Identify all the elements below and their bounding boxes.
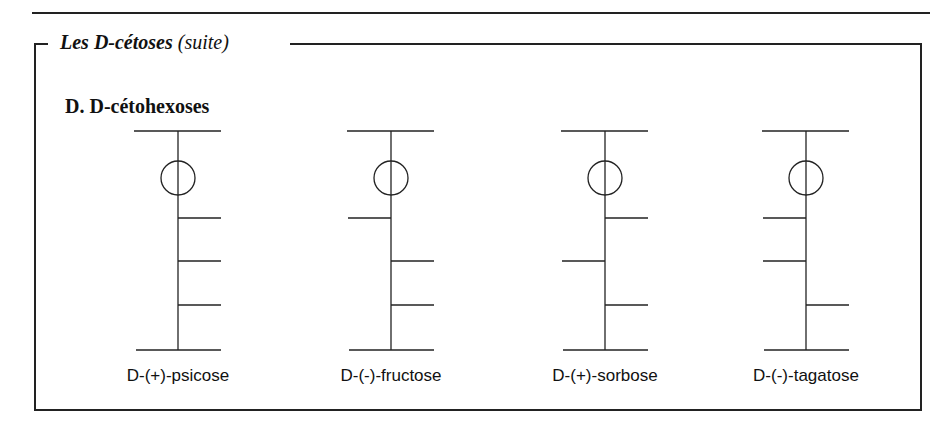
molecule-label-sorbose: D-(+)-sorbose [552, 366, 657, 386]
molecule-label-tagatose: D-(-)-tagatose [753, 366, 859, 386]
molecule-label-fructose: D-(-)-fructose [340, 366, 441, 386]
molecule-label-psicose: D-(+)-psicose [127, 366, 230, 386]
